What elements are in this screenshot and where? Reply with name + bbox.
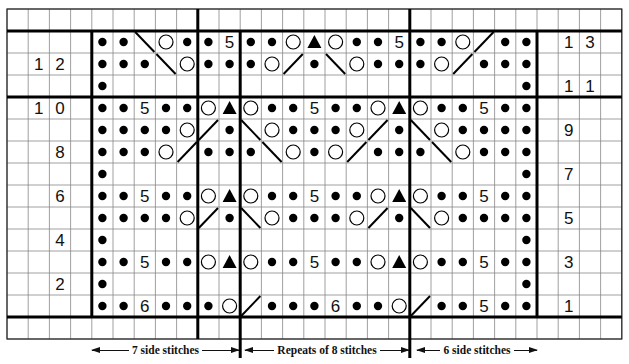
knit-dot-icon	[416, 60, 424, 68]
row-number-right: 1	[564, 33, 573, 52]
decrease-triangle-icon	[392, 189, 406, 202]
knit-dot-icon	[374, 148, 382, 156]
knit-dot-icon	[501, 38, 509, 46]
knit-dot-icon	[162, 302, 170, 310]
row-number-left: 4	[55, 231, 64, 250]
knit-dot-icon	[459, 126, 467, 134]
yarn-over-icon	[350, 211, 364, 225]
right-slant-decrease-icon	[411, 296, 430, 316]
knit-dot-icon	[374, 38, 382, 46]
knit-dot-icon	[119, 104, 127, 112]
knit-dot-icon	[98, 258, 106, 266]
knit-dot-icon	[268, 192, 276, 200]
knit-dot-icon	[395, 60, 403, 68]
knit-dot-icon	[183, 192, 191, 200]
knit-dot-icon	[289, 258, 297, 266]
arrow-right-icon	[202, 350, 239, 351]
knit-dot-icon	[162, 258, 170, 266]
arrow-right-icon	[380, 350, 409, 351]
knit-dot-icon	[310, 302, 318, 310]
knit-dot-icon	[183, 258, 191, 266]
knit-dot-icon	[119, 148, 127, 156]
knit-dot-icon	[522, 214, 530, 222]
knit-dot-icon	[119, 38, 127, 46]
knit-dot-icon	[247, 148, 255, 156]
knit-dot-icon	[331, 192, 339, 200]
knit-dot-icon	[522, 82, 530, 90]
knit-dot-icon	[141, 60, 149, 68]
stitch-count-label: 5	[479, 99, 488, 118]
right-slant-decrease-icon	[368, 120, 387, 140]
row-number-right: 1	[564, 77, 573, 96]
knit-dot-icon	[204, 148, 212, 156]
yarn-over-icon	[413, 189, 427, 203]
knit-dot-icon	[522, 258, 530, 266]
right-slant-decrease-icon	[241, 296, 260, 316]
yarn-over-icon	[286, 35, 300, 49]
row-number-right: 5	[564, 209, 573, 228]
knit-dot-icon	[522, 148, 530, 156]
stitch-count-label: 5	[140, 187, 149, 206]
knit-dot-icon	[374, 302, 382, 310]
knit-dot-icon	[119, 258, 127, 266]
knit-dot-icon	[459, 258, 467, 266]
knit-dot-icon	[501, 148, 509, 156]
knit-dot-icon	[289, 192, 297, 200]
yarn-over-icon	[201, 101, 215, 115]
knit-dot-icon	[268, 302, 276, 310]
yarn-over-icon	[159, 35, 173, 49]
knit-dot-icon	[374, 60, 382, 68]
knit-dot-icon	[501, 258, 509, 266]
knit-dot-icon	[437, 38, 445, 46]
knit-dot-icon	[501, 60, 509, 68]
knit-dot-icon	[98, 38, 106, 46]
knit-dot-icon	[353, 192, 361, 200]
yarn-over-icon	[456, 145, 470, 159]
knit-dot-icon	[225, 126, 233, 134]
knit-dot-icon	[225, 60, 233, 68]
row-number-right: 7	[564, 165, 573, 184]
knit-dot-icon	[459, 192, 467, 200]
arrow-left-icon	[245, 350, 274, 351]
knit-dot-icon	[289, 104, 297, 112]
stitch-count-label: 6	[140, 297, 149, 316]
knit-dot-icon	[501, 192, 509, 200]
left-slant-decrease-icon	[241, 208, 260, 228]
knit-dot-icon	[162, 192, 170, 200]
knit-dot-icon	[310, 60, 318, 68]
knit-dot-icon	[353, 258, 361, 266]
row-number-right: 3	[564, 253, 573, 272]
yarn-over-icon	[180, 57, 194, 71]
knit-dot-icon	[162, 214, 170, 222]
right-slant-decrease-icon	[178, 142, 197, 162]
yarn-over-icon	[180, 211, 194, 225]
knit-dot-icon	[141, 126, 149, 134]
row-number-right: 1	[585, 77, 594, 96]
arrow-left-icon	[92, 350, 129, 351]
row-number-right: 9	[564, 121, 573, 140]
footer-repeat: Repeats of 8 stitches	[245, 342, 409, 358]
knit-dot-icon	[395, 214, 403, 222]
knit-dot-icon	[522, 104, 530, 112]
footer-left-label: 7 side stitches	[129, 344, 202, 356]
yarn-over-icon	[350, 123, 364, 137]
yarn-over-icon	[435, 211, 449, 225]
knit-dot-icon	[437, 192, 445, 200]
knit-dot-icon	[437, 104, 445, 112]
yarn-over-icon	[286, 145, 300, 159]
knit-dot-icon	[119, 302, 127, 310]
left-slant-decrease-icon	[432, 142, 451, 162]
left-slant-decrease-icon	[262, 142, 281, 162]
knit-dot-icon	[353, 38, 361, 46]
knit-dot-icon	[480, 148, 488, 156]
knit-dot-icon	[395, 148, 403, 156]
row-number-left: 2	[55, 275, 64, 294]
right-slant-decrease-icon	[368, 208, 387, 228]
left-slant-decrease-icon	[241, 120, 260, 140]
knit-dot-icon	[98, 60, 106, 68]
right-slant-decrease-icon	[199, 120, 218, 140]
knit-dot-icon	[310, 126, 318, 134]
knit-dot-icon	[459, 214, 467, 222]
knit-dot-icon	[501, 214, 509, 222]
right-slant-decrease-icon	[284, 54, 303, 74]
